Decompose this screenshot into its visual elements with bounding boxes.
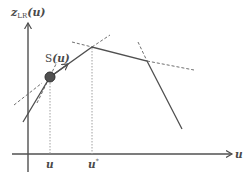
tick-label-u-star: u* — [88, 157, 99, 170]
tick-label-u: u — [46, 158, 54, 170]
y-axis-label: zLR(u) — [10, 6, 46, 20]
current-point — [45, 72, 55, 82]
point-label: S(u) — [45, 52, 70, 64]
diagram-canvas: zLR(u) S(u) u u* u — [0, 0, 247, 178]
x-axis-label: u — [235, 148, 243, 160]
supporting-lines — [14, 35, 194, 105]
